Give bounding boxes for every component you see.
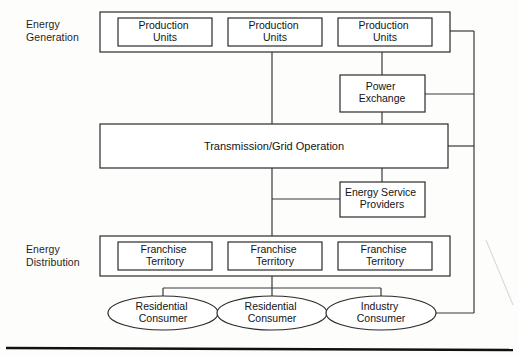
power-exchange-group: Power Exchange [340, 75, 425, 112]
transmission-group: Transmission/Grid Operation [100, 124, 448, 168]
scan-crease-line [486, 240, 513, 305]
consumer-label-2: Residential Consumer [245, 300, 300, 324]
energy-service-providers-group: Energy Service Providers [340, 182, 425, 217]
consumers-group: Residential Consumer Residential Consume… [108, 296, 436, 330]
franchise-territory-label-2: Franchise Territory [250, 243, 299, 267]
energy-generation-group: Production Units Production Units Produc… [100, 12, 450, 52]
consumer-label-3: Industry Consumer [357, 300, 406, 324]
transmission-label: Transmission/Grid Operation [204, 140, 344, 152]
consumer-label-1: Residential Consumer [136, 300, 191, 324]
franchise-territory-label-1: Franchise Territory [140, 243, 189, 267]
diagram-canvas: Energy Generation Energy Distribution [0, 0, 519, 356]
franchise-territory-label-3: Franchise Territory [360, 243, 409, 267]
bottom-rule [6, 348, 513, 350]
diagram-svg: Production Units Production Units Produc… [0, 0, 519, 356]
energy-distribution-group: Franchise Territory Franchise Territory … [100, 236, 450, 276]
